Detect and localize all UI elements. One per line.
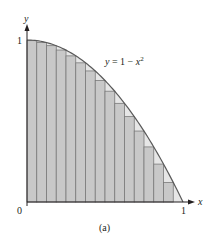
riemann-bar — [134, 131, 144, 202]
curve-label: y = 1 − x2 — [104, 55, 144, 67]
riemann-bar — [47, 46, 57, 202]
riemann-bar — [86, 71, 96, 202]
riemann-bar — [56, 50, 66, 202]
riemann-bar — [125, 117, 135, 202]
riemann-bar — [115, 103, 125, 202]
x-tick-0: 0 — [17, 205, 22, 216]
riemann-bar — [144, 147, 154, 202]
y-tick-1: 1 — [17, 35, 22, 46]
riemann-bar — [105, 91, 115, 202]
riemann-bar — [37, 43, 47, 202]
riemann-bars — [27, 41, 173, 202]
figure-caption: (a) — [99, 222, 110, 234]
x-tick-1: 1 — [181, 205, 186, 216]
y-axis-arrow-icon — [25, 24, 30, 31]
riemann-bar — [154, 164, 164, 202]
riemann-bar — [66, 56, 76, 202]
riemann-bar — [164, 182, 174, 202]
riemann-sum-figure: y x 1 0 1 y = 1 − x2 (a) — [0, 0, 217, 241]
x-axis-label: x — [197, 196, 203, 207]
riemann-bar — [27, 41, 37, 202]
y-axis-label: y — [23, 13, 29, 24]
riemann-bar — [76, 63, 86, 202]
riemann-bar — [95, 81, 105, 203]
x-axis-arrow-icon — [188, 200, 195, 205]
